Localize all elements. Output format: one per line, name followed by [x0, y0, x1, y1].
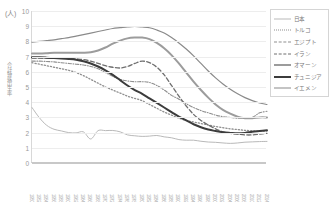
- plot-area: [31, 11, 266, 163]
- legend-item-エジプト[interactable]: エジプト: [274, 36, 326, 48]
- y-tick-10: 10: [13, 8, 29, 15]
- x-tick-2002: 2002: [219, 194, 224, 202]
- gridline-2: [32, 133, 266, 134]
- series-line-チュニジア: [32, 57, 267, 133]
- x-tick-1992: 1992: [183, 194, 188, 202]
- gridline-7: [32, 57, 266, 58]
- x-tick-1950: 1950: [29, 194, 34, 202]
- legend-swatch-icon: [274, 85, 291, 92]
- fertility-rate-line-chart: (人) 合計特殊出生率 012345678910 195019521954195…: [0, 0, 331, 202]
- x-tick-1978: 1978: [131, 194, 136, 202]
- gridline-0: [32, 163, 266, 164]
- x-tick-1974: 1974: [117, 194, 122, 202]
- legend-label: オマーン: [294, 61, 317, 69]
- legend-label: チュニジア: [294, 73, 323, 81]
- legend-swatch-icon: [274, 73, 291, 80]
- x-tick-1982: 1982: [146, 194, 151, 202]
- x-tick-1984: 1984: [153, 194, 158, 202]
- x-tick-2000: 2000: [212, 194, 217, 202]
- x-tick-1966: 1966: [87, 194, 92, 202]
- legend-label: イエメン: [294, 84, 317, 92]
- y-tick-0: 0: [13, 160, 29, 167]
- legend-swatch-icon: [274, 38, 291, 45]
- series-line-日本: [32, 108, 267, 144]
- x-tick-1998: 1998: [205, 194, 210, 202]
- legend-item-トルコ[interactable]: トルコ: [274, 25, 326, 37]
- legend-swatch-icon: [274, 62, 291, 69]
- y-tick-3: 3: [13, 114, 29, 121]
- gridline-1: [32, 148, 266, 149]
- x-tick-2008: 2008: [241, 194, 246, 202]
- y-axis-tick-labels: 012345678910: [13, 11, 29, 163]
- x-tick-1968: 1968: [95, 194, 100, 202]
- y-tick-5: 5: [13, 84, 29, 91]
- y-tick-8: 8: [13, 38, 29, 45]
- x-tick-1990: 1990: [175, 194, 180, 202]
- legend-swatch-icon: [274, 27, 291, 34]
- legend-label: トルコ: [294, 26, 311, 34]
- y-axis-title: 合計特殊出生率: [1, 62, 11, 94]
- x-tick-1972: 1972: [109, 194, 114, 202]
- x-axis-tick-labels: 1950195219541956195819601962196419661968…: [31, 165, 266, 202]
- legend-item-チュニジア[interactable]: チュニジア: [274, 71, 326, 83]
- legend-swatch-icon: [274, 15, 291, 22]
- x-tick-1986: 1986: [161, 194, 166, 202]
- x-tick-1970: 1970: [102, 194, 107, 202]
- chart-legend: 日本トルコエジプトイランオマーンチュニジアイエメン: [270, 9, 329, 97]
- x-tick-2012: 2012: [256, 194, 261, 202]
- legend-item-イラン[interactable]: イラン: [274, 48, 326, 60]
- x-tick-1954: 1954: [43, 194, 48, 202]
- x-tick-1962: 1962: [73, 194, 78, 202]
- y-tick-4: 4: [13, 99, 29, 106]
- x-tick-1964: 1964: [80, 194, 85, 202]
- x-tick-1996: 1996: [197, 194, 202, 202]
- gridline-8: [32, 41, 266, 42]
- gridline-9: [32, 26, 266, 27]
- legend-item-日本[interactable]: 日本: [274, 13, 326, 25]
- legend-label: イラン: [294, 50, 311, 58]
- x-tick-1960: 1960: [65, 194, 70, 202]
- x-tick-2004: 2004: [227, 194, 232, 202]
- gridline-5: [32, 87, 266, 88]
- x-tick-2010: 2010: [249, 194, 254, 202]
- series-line-オマーン: [32, 37, 267, 118]
- x-tick-1994: 1994: [190, 194, 195, 202]
- x-tick-1988: 1988: [168, 194, 173, 202]
- legend-item-イエメン[interactable]: イエメン: [274, 83, 326, 95]
- x-tick-1956: 1956: [51, 194, 56, 202]
- x-tick-2014: 2014: [264, 194, 269, 202]
- gridline-4: [32, 102, 266, 103]
- legend-label: エジプト: [294, 38, 317, 46]
- x-tick-1976: 1976: [124, 194, 129, 202]
- gridline-3: [32, 117, 266, 118]
- legend-label: 日本: [294, 15, 305, 23]
- legend-swatch-icon: [274, 50, 291, 57]
- x-tick-2006: 2006: [234, 194, 239, 202]
- gridline-6: [32, 72, 266, 73]
- gridline-10: [32, 11, 266, 12]
- x-tick-1958: 1958: [58, 194, 63, 202]
- y-tick-1: 1: [13, 144, 29, 151]
- x-tick-1980: 1980: [139, 194, 144, 202]
- y-tick-7: 7: [13, 53, 29, 60]
- y-tick-2: 2: [13, 129, 29, 136]
- y-tick-6: 6: [13, 68, 29, 75]
- x-tick-1952: 1952: [36, 194, 41, 202]
- y-tick-9: 9: [13, 23, 29, 30]
- legend-item-オマーン[interactable]: オマーン: [274, 59, 326, 71]
- series-line-トルコ: [32, 63, 267, 131]
